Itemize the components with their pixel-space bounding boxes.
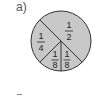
- eighth-left-numerator: 1: [52, 49, 57, 59]
- eighth-right-denominator: 8: [64, 60, 69, 70]
- half-numerator: 1: [66, 20, 71, 30]
- fraction-eighth-right: 1 8: [64, 49, 71, 70]
- half-denominator: 2: [66, 32, 71, 42]
- fraction-circle-diagram: 1 2 1 4 1 8 1 8: [0, 0, 92, 97]
- fraction-eighth-left: 1 8: [52, 49, 59, 70]
- eighth-right-numerator: 1: [64, 49, 69, 59]
- quarter-numerator: 1: [38, 31, 43, 41]
- quarter-denominator: 4: [38, 43, 43, 53]
- eighth-left-denominator: 8: [52, 60, 57, 70]
- partial-next-label-mark: [17, 94, 22, 95]
